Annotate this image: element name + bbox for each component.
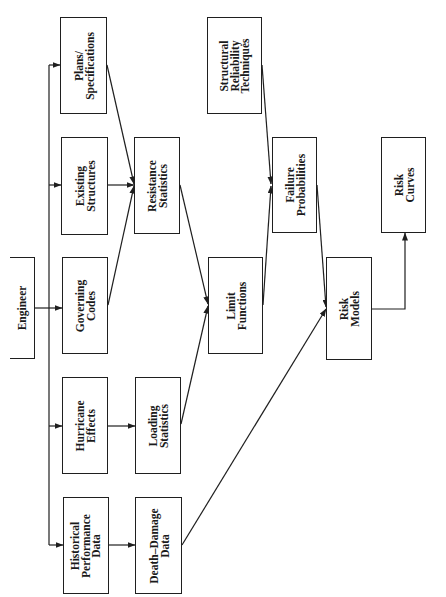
arrow-plans-to-resistance	[107, 65, 134, 184]
arrow-risk-models-to-risk-curves	[372, 233, 405, 309]
node-historical-performance-data: Historical Performance Data	[63, 497, 109, 594]
node-failure-probabilities-label: Failure Probabilities	[284, 154, 305, 216]
node-risk-models-label: Risk Models	[339, 291, 360, 327]
node-structural-reliability-techniques-label: Structural Reliability Techniques	[219, 38, 251, 93]
node-structural-reliability-techniques: Structural Reliability Techniques	[207, 17, 262, 114]
arrow-limit-to-failure	[263, 186, 271, 305]
node-loading-statistics: Loading Statistics	[135, 377, 181, 474]
node-engineer: Engineer	[10, 257, 35, 359]
arrow-failure-to-risk-models	[317, 185, 326, 307]
flowchart-diagram: Engineer Plans/ Specifications Existing …	[0, 0, 446, 597]
node-engineer-label: Engineer	[17, 286, 28, 331]
node-hurricane-effects-label: Hurricane Effects	[75, 400, 96, 451]
arrow-structural-to-failure	[262, 65, 271, 184]
node-risk-curves: Risk Curves	[381, 137, 426, 233]
arrow-resistance-to-limit	[180, 185, 208, 304]
node-loading-statistics-label: Loading Statistics	[148, 403, 169, 447]
node-death-damage-data-label: Death–Damage Data	[148, 508, 169, 583]
node-plans-specifications: Plans/ Specifications	[60, 17, 107, 114]
node-resistance-statistics-label: Resistance Statistics	[147, 160, 168, 212]
node-existing-structures-label: Existing Structures	[74, 160, 95, 212]
node-plans-specifications-label: Plans/ Specifications	[73, 32, 94, 100]
node-historical-performance-data-label: Historical Performance Data	[70, 514, 102, 578]
node-existing-structures: Existing Structures	[61, 137, 108, 235]
node-governing-codes: Governing Codes	[62, 257, 108, 354]
node-limit-functions-label: Limit Functions	[225, 281, 246, 330]
arrow-loading-to-limit	[181, 306, 208, 424]
node-resistance-statistics: Resistance Statistics	[134, 137, 180, 234]
node-governing-codes-label: Governing Codes	[75, 279, 96, 331]
node-hurricane-effects: Hurricane Effects	[62, 377, 108, 474]
node-risk-models: Risk Models	[326, 257, 372, 360]
arrow-governing-to-resistance	[108, 186, 134, 305]
node-failure-probabilities: Failure Probabilities	[272, 137, 317, 233]
node-risk-curves-label: Risk Curves	[393, 167, 414, 202]
node-limit-functions: Limit Functions	[208, 257, 263, 354]
node-death-damage-data: Death–Damage Data	[135, 497, 182, 594]
